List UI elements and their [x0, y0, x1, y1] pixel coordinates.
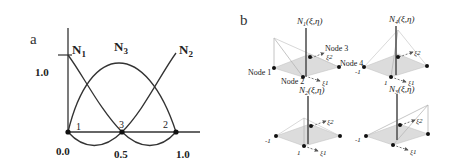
one-label: 1 [297, 149, 301, 157]
node-4-marker [337, 65, 341, 69]
xi2-label: ξ2 [326, 53, 333, 61]
node-2-marker [173, 129, 178, 134]
node-2-label: 2 [163, 119, 168, 130]
node-1-marker [362, 65, 366, 69]
subplot-n2: N2(ξ,η) -1 1 ξ2 ξ1 [265, 85, 342, 157]
shape-surface [366, 105, 428, 145]
xi2-axis [401, 120, 415, 125]
xi2-axis [311, 53, 324, 58]
node-1-marker [274, 134, 278, 138]
subplot-title: N3(ξ,η) [388, 84, 415, 95]
element-plane [276, 124, 340, 146]
subplot-n1: N1(ξ,η) Node 1 Node 2 Node 3 ξ2 ξ1 [248, 16, 348, 87]
shape-surface [364, 30, 427, 67]
node-3-marker [396, 55, 400, 59]
node-4-marker [426, 132, 430, 136]
xi1-label: ξ1 [408, 79, 415, 87]
node-2-marker [302, 144, 306, 148]
element-plane [364, 54, 427, 77]
xi2-axis [312, 121, 326, 126]
xi2-axis [399, 52, 413, 57]
minus-one-label: -1 [265, 137, 271, 145]
x-tick-label-05: 0.5 [114, 148, 128, 160]
xi1-label: ξ1 [322, 79, 329, 87]
node-1-marker [272, 66, 276, 70]
shape-surface [274, 38, 303, 77]
element-plane [274, 54, 339, 77]
node-4-marker [425, 64, 429, 68]
xi1-axis [305, 76, 320, 81]
xi1-axis [393, 145, 408, 150]
minus-one-label: -1 [355, 136, 361, 144]
xi2-label: ξ2 [327, 118, 334, 126]
node-2-marker [391, 143, 395, 147]
element-plane [366, 124, 428, 145]
xi2-label: ξ2 [416, 117, 423, 125]
node-3-label: Node 3 [325, 44, 348, 53]
node-2-marker [389, 75, 393, 79]
node-1-marker [65, 129, 70, 134]
subplot-title: N4(ξ,η) [388, 14, 415, 25]
x-tick-label-0: 0.0 [56, 145, 70, 157]
subplot-n3: N3(ξ,η) -1 ξ2 ξ1 [355, 84, 430, 156]
node-4-label: Node 4 [340, 59, 363, 68]
xi1-axis [391, 77, 406, 82]
subplot-title: N2(ξ,η) [298, 85, 325, 96]
panel-a-plot: 1.0 0.0 0.5 1.0 N1 N3 N2 1 3 2 [0, 0, 230, 167]
node-1-label: 1 [76, 121, 81, 132]
minus-one-label: -1 [355, 68, 361, 76]
node-2-label: Node 2 [281, 77, 304, 86]
shape-surface [276, 118, 340, 136]
panel-b-label: b [240, 12, 248, 29]
n2-label: N2 [179, 42, 193, 59]
xi1-label: ξ1 [410, 148, 417, 156]
x-tick-label-1: 1.0 [176, 148, 190, 160]
node-4-marker [338, 134, 342, 138]
xi2-label: ξ2 [414, 49, 421, 57]
y-tick-label: 1.0 [35, 66, 49, 78]
node-3-marker [119, 129, 124, 134]
node-3-label: 3 [119, 119, 124, 130]
node-3-marker [398, 123, 402, 127]
node-3-marker [309, 124, 313, 128]
n3-label: N3 [114, 39, 128, 56]
subplot-title: N1(ξ,η) [296, 16, 323, 27]
node-1-marker [364, 134, 368, 138]
xi1-label: ξ1 [320, 149, 327, 157]
xi1-axis [304, 146, 318, 151]
subplot-n4: N4(ξ,η) Node 4 -1 1 ξ2 ξ1 [340, 14, 429, 87]
node-1-label: Node 1 [248, 68, 271, 77]
n1-label: N1 [72, 42, 86, 59]
one-label: 1 [384, 79, 388, 87]
node-3-marker [308, 55, 312, 59]
node-2-marker [301, 75, 305, 79]
